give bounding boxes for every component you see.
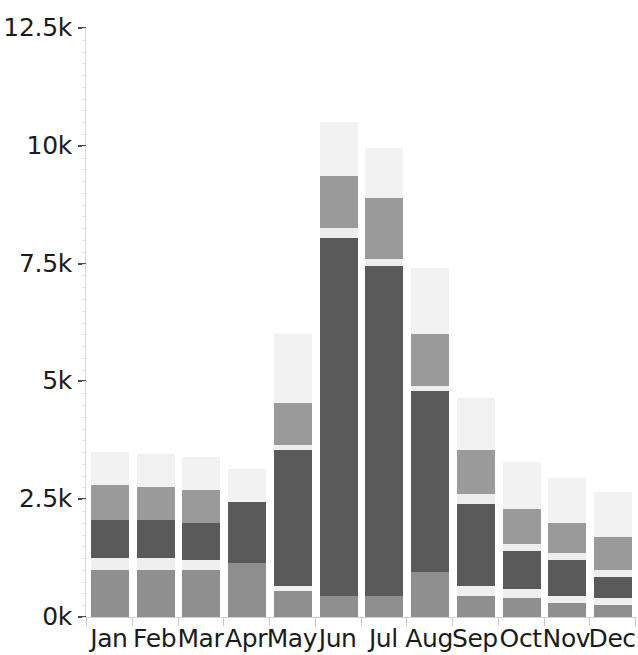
bar-segment[interactable] [182,490,220,523]
bar-segment[interactable] [457,398,495,450]
bar-segment[interactable] [91,452,129,485]
y-tick-label: 10k [27,130,72,162]
bar-segment[interactable] [182,560,220,569]
bar-may[interactable] [274,28,312,617]
y-tick-label: 5k [42,365,72,397]
bar-segment[interactable] [548,523,586,554]
bar-segment[interactable] [548,553,586,560]
bar-feb[interactable] [137,28,175,617]
x-tick-label-dec: Dec [586,624,638,654]
x-tick-label-oct: Oct [495,624,547,654]
bar-segment[interactable] [594,537,632,570]
x-tick-label-may: May [266,624,318,654]
bar-segment[interactable] [91,570,129,617]
bar-segment[interactable] [320,596,358,617]
y-tick-label: 2.5k [19,483,72,515]
bar-segment[interactable] [548,560,586,595]
y-tick-label: 0k [42,601,72,633]
bar-segment[interactable] [274,334,312,402]
bar-nov[interactable] [548,28,586,617]
bar-jul[interactable] [365,28,403,617]
bar-segment[interactable] [320,228,358,237]
bar-segment[interactable] [91,485,129,520]
bar-segment[interactable] [503,598,541,617]
x-tick-label-jan: Jan [83,624,135,654]
bar-segment[interactable] [320,122,358,176]
bar-segment[interactable] [411,386,449,391]
bar-segment[interactable] [548,596,586,603]
bar-dec[interactable] [594,28,632,617]
bar-segment[interactable] [274,403,312,445]
bar-segment[interactable] [457,596,495,617]
bar-segment[interactable] [182,523,220,561]
bar-segment[interactable] [137,520,175,558]
x-tick-label-apr: Apr [220,624,272,654]
bar-segment[interactable] [594,492,632,537]
bar-segment[interactable] [503,551,541,589]
bar-segment[interactable] [411,572,449,617]
bar-segment[interactable] [503,509,541,544]
bar-jun[interactable] [320,28,358,617]
x-tick-label-nov: Nov [541,624,593,654]
bar-segment[interactable] [137,454,175,487]
bar-segment[interactable] [503,462,541,509]
bar-segment[interactable] [274,586,312,591]
bar-segment[interactable] [457,504,495,586]
x-tick-label-jul: Jul [358,624,410,654]
bar-apr[interactable] [228,28,266,617]
x-tick-label-jun: Jun [312,624,364,654]
bar-segment[interactable] [274,450,312,587]
bar-segment[interactable] [594,577,632,598]
bar-segment[interactable] [137,487,175,520]
bar-segment[interactable] [137,570,175,617]
x-tick-label-mar: Mar [175,624,227,654]
bar-sep[interactable] [457,28,495,617]
bar-segment[interactable] [503,544,541,551]
bar-jan[interactable] [91,28,129,617]
bar-oct[interactable] [503,28,541,617]
bar-mar[interactable] [182,28,220,617]
bar-segment[interactable] [182,570,220,617]
bar-segment[interactable] [91,558,129,570]
bar-segment[interactable] [182,457,220,490]
bar-segment[interactable] [411,334,449,386]
bar-segment[interactable] [411,268,449,334]
bar-segment[interactable] [457,450,495,495]
x-tick-label-feb: Feb [129,624,181,654]
bar-segment[interactable] [274,591,312,617]
bar-segment[interactable] [137,558,175,570]
bar-segment[interactable] [320,176,358,228]
bar-segment[interactable] [411,391,449,572]
bar-segment[interactable] [228,502,266,563]
bar-segment[interactable] [594,598,632,605]
bar-segment[interactable] [228,469,266,502]
plot-area [86,28,635,617]
bar-segment[interactable] [228,563,266,617]
bar-segment[interactable] [548,478,586,523]
bar-aug[interactable] [411,28,449,617]
bar-segment[interactable] [365,198,403,259]
bar-segment[interactable] [91,520,129,558]
bar-segment[interactable] [320,238,358,596]
bar-segment[interactable] [457,494,495,503]
x-tick-label-sep: Sep [449,624,501,654]
bar-segment[interactable] [548,603,586,617]
bar-segment[interactable] [274,445,312,450]
x-tick-label-aug: Aug [403,624,455,654]
bar-segment[interactable] [365,148,403,197]
y-tick-label: 7.5k [19,248,72,280]
bar-segment[interactable] [365,259,403,266]
bar-segment[interactable] [457,586,495,595]
bar-segment[interactable] [365,596,403,617]
y-tick-label: 12.5k [3,12,72,44]
bar-segment[interactable] [594,605,632,617]
bar-segment[interactable] [365,266,403,596]
bar-segment[interactable] [503,589,541,598]
bar-segment[interactable] [594,570,632,577]
